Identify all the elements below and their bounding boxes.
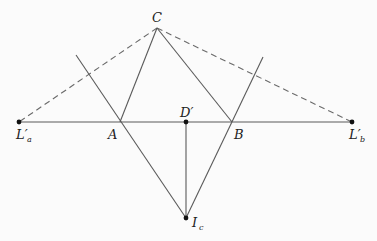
label-ic-sub: c	[199, 223, 204, 232]
label-lpb-sub: b	[360, 135, 365, 144]
geometry-diagram: C A B D′ L′ a L′ b I c	[0, 0, 377, 241]
dashed-line-c-lpa	[19, 28, 157, 122]
label-b: B	[233, 127, 244, 142]
side-cb	[157, 28, 232, 122]
point-dp	[184, 120, 189, 125]
side-ca	[120, 28, 157, 122]
label-lpa-sub: a	[27, 135, 32, 144]
label-lpb: L′	[348, 127, 361, 142]
point-lpa	[17, 120, 22, 125]
line-a-ic	[76, 55, 186, 218]
point-lpb	[350, 120, 355, 125]
label-a: A	[107, 127, 117, 142]
label-lpa: L′	[15, 127, 28, 142]
label-c: C	[152, 10, 162, 25]
label-ic: I	[191, 215, 198, 230]
line-b-ic	[186, 57, 263, 218]
point-ic	[184, 216, 189, 221]
label-dp: D′	[179, 105, 193, 120]
